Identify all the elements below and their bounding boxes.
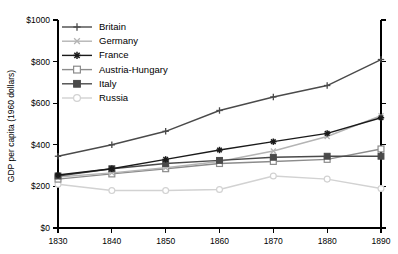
data-point-marker-open-square bbox=[378, 146, 384, 152]
legend-label: France bbox=[99, 49, 129, 60]
x-tick-label: 1850 bbox=[156, 236, 175, 246]
y-tick-label: $400 bbox=[31, 140, 50, 150]
data-point-marker-open-circle bbox=[270, 173, 276, 179]
data-point-marker-filled-square bbox=[324, 153, 330, 159]
y-tick-label: $200 bbox=[31, 181, 50, 191]
legend-label: Austria-Hungary bbox=[99, 64, 168, 75]
data-point-marker-star bbox=[216, 147, 222, 153]
legend-label: Britain bbox=[99, 21, 126, 32]
x-tick-label: 1830 bbox=[49, 236, 68, 246]
gdp-per-capita-line-chart: GDP per capita (1960 dollars) $0$200$400… bbox=[0, 0, 398, 254]
series-russia bbox=[55, 173, 384, 193]
legend-item-germany[interactable]: Germany bbox=[62, 35, 138, 46]
data-point-marker-filled-square bbox=[378, 153, 384, 159]
data-point-marker-plus bbox=[73, 23, 80, 30]
data-point-marker-plus bbox=[55, 153, 61, 159]
y-tick-label: $1000 bbox=[26, 15, 50, 25]
data-point-marker-filled-square bbox=[217, 157, 223, 163]
legend-item-britain[interactable]: Britain bbox=[62, 21, 126, 32]
legend-item-russia[interactable]: Russia bbox=[62, 92, 129, 103]
data-point-marker-filled-square bbox=[270, 154, 276, 160]
y-tick-label: $600 bbox=[31, 98, 50, 108]
legend-label: Germany bbox=[99, 35, 138, 46]
y-axis-title-text: GDP per capita (1960 dollars) bbox=[6, 70, 16, 182]
data-point-marker-plus bbox=[270, 94, 276, 100]
chart-legend: BritainGermanyFranceAustria-HungaryItaly… bbox=[62, 21, 168, 103]
data-point-marker-star bbox=[270, 138, 276, 144]
legend-item-italy[interactable]: Italy bbox=[62, 78, 117, 89]
x-tick-label: 1890 bbox=[372, 236, 391, 246]
x-tick-label: 1880 bbox=[318, 236, 337, 246]
data-point-marker-star bbox=[378, 115, 384, 121]
data-point-marker-open-circle bbox=[378, 186, 384, 192]
data-point-marker-plus bbox=[216, 107, 222, 113]
data-point-marker-open-circle bbox=[74, 95, 81, 102]
data-point-marker-star bbox=[109, 166, 115, 172]
legend-label: Italy bbox=[99, 78, 117, 89]
y-tick-label: $0 bbox=[41, 223, 51, 233]
data-point-marker-plus bbox=[324, 82, 330, 88]
data-point-marker-star bbox=[162, 156, 168, 162]
data-point-marker-star bbox=[55, 172, 61, 178]
data-point-marker-open-circle bbox=[324, 176, 330, 182]
x-axis-ticks: 1830184018501860187018801890 bbox=[49, 228, 391, 246]
y-axis-title: GDP per capita (1960 dollars) bbox=[6, 70, 16, 182]
data-point-marker-plus bbox=[109, 142, 115, 148]
y-axis-ticks: $0$200$400$600$800$1000 bbox=[26, 15, 386, 233]
legend-item-austria-hungary[interactable]: Austria-Hungary bbox=[62, 64, 168, 75]
data-point-marker-open-circle bbox=[163, 188, 169, 194]
data-point-marker-star bbox=[73, 52, 80, 59]
x-tick-label: 1840 bbox=[102, 236, 121, 246]
legend-label: Russia bbox=[99, 92, 129, 103]
data-point-marker-plus bbox=[162, 128, 168, 134]
y-tick-label: $800 bbox=[31, 57, 50, 67]
legend-item-france[interactable]: France bbox=[62, 49, 129, 60]
chart-container: GDP per capita (1960 dollars) $0$200$400… bbox=[0, 0, 398, 254]
data-point-marker-open-square bbox=[74, 66, 81, 73]
data-point-marker-filled-square bbox=[74, 80, 81, 87]
data-point-marker-open-circle bbox=[109, 188, 115, 194]
data-point-marker-star bbox=[324, 130, 330, 136]
x-tick-label: 1870 bbox=[264, 236, 283, 246]
data-point-marker-open-circle bbox=[217, 187, 223, 193]
x-tick-label: 1860 bbox=[210, 236, 229, 246]
